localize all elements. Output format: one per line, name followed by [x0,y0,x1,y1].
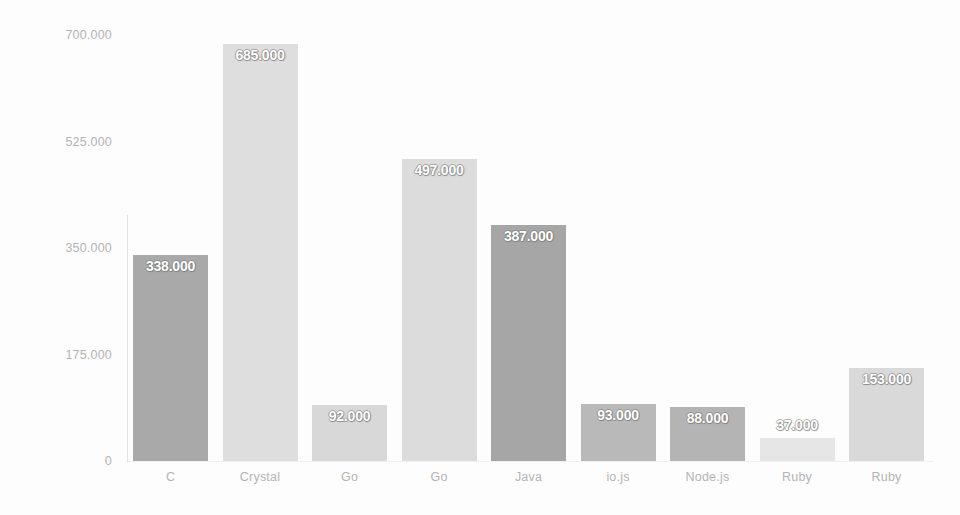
y-axis-tick-1: 175.000 [65,348,112,362]
x-axis-label-7: Ruby [760,470,835,484]
bar-ruby-7[interactable]: 37.000 [760,438,835,461]
x-axis-label-6: Node.js [670,470,745,484]
x-axis-label-1: Crystal [223,470,298,484]
bar-go-2[interactable]: 92.000 [312,405,387,461]
bar-rect[interactable] [849,368,924,461]
bar-java-4[interactable]: 387.000 [491,225,566,461]
bar-rect[interactable] [760,438,835,461]
x-axis-category-labels: CCrystalGoGoJavaio.jsNode.jsRubyRuby [128,470,938,500]
x-axis-label-4: Java [491,470,566,484]
y-axis-tick-0: 0 [105,454,112,468]
bar-chart: 0175.000350.000525.000700.000 338.000685… [0,0,960,515]
bar-c-0[interactable]: 338.000 [133,255,208,461]
bar-iojs-5[interactable]: 93.000 [581,404,656,461]
bar-rect[interactable] [491,225,566,461]
bar-rect[interactable] [312,405,387,461]
y-axis-tick-2: 350.000 [65,241,112,255]
bar-value-label: 37.000 [760,417,835,433]
bar-crystal-1[interactable]: 685.000 [223,44,298,461]
plot-area: 338.000685.00092.000497.000387.00093.000… [128,35,938,461]
bar-rect[interactable] [581,404,656,461]
bar-rect[interactable] [402,159,477,461]
x-axis-label-2: Go [312,470,387,484]
bar-rect[interactable] [223,44,298,461]
x-axis-label-8: Ruby [849,470,924,484]
x-axis-label-0: C [133,470,208,484]
bar-ruby-8[interactable]: 153.000 [849,368,924,461]
x-axis-label-5: io.js [581,470,656,484]
y-axis-tick-3: 525.000 [65,135,112,149]
x-axis-label-3: Go [402,470,477,484]
bar-rect[interactable] [133,255,208,461]
bar-go-3[interactable]: 497.000 [402,159,477,461]
y-axis-tick-labels: 0175.000350.000525.000700.000 [0,0,120,515]
y-axis-tick-4: 700.000 [65,28,112,42]
x-axis-line [128,461,934,462]
bar-rect[interactable] [670,407,745,461]
bar-nodejs-6[interactable]: 88.000 [670,407,745,461]
